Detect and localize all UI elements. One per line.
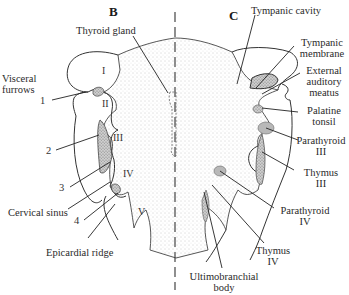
tympanic-cavity-shape bbox=[250, 74, 278, 89]
label-ultimobranchial-body-line2: body bbox=[188, 282, 260, 293]
label-tympanic-membrane-line1: Tympanic bbox=[296, 37, 348, 48]
label-external-auditory-meatus-line3: meatus bbox=[300, 87, 348, 98]
furrow-number-3: 3 bbox=[59, 182, 64, 193]
label-palatine-tonsil-line1: Palatine bbox=[300, 105, 348, 116]
furrow-number-4: 4 bbox=[74, 215, 79, 226]
panel-label-b: B bbox=[109, 4, 118, 20]
arch-numeral-iv: IV bbox=[123, 168, 134, 179]
pharyngeal-arches-diagram: B C Thyroid gland Visceral furrows Cervi… bbox=[0, 0, 349, 295]
label-external-auditory-meatus-line1: External bbox=[300, 65, 348, 76]
furrow-4-pouch bbox=[112, 184, 121, 194]
label-cervical-sinus: Cervical sinus bbox=[8, 207, 68, 218]
label-thymus-iii-line2: III bbox=[296, 178, 346, 189]
label-ultimobranchial-body-line1: Ultimobranchial bbox=[188, 271, 260, 282]
furrow-number-1: 1 bbox=[40, 95, 45, 106]
label-thyroid-gland: Thyroid gland bbox=[76, 25, 136, 36]
furrow-1-pouch bbox=[93, 87, 104, 96]
arch-numeral-i: I bbox=[102, 65, 105, 76]
arch-numeral-v: V bbox=[138, 206, 145, 217]
label-parathyroid-iii-line1: Parathyroid bbox=[293, 135, 349, 146]
palatine-tonsil-shape bbox=[253, 105, 263, 113]
furrow-number-2: 2 bbox=[46, 145, 51, 156]
arch-numeral-iii: III bbox=[113, 132, 123, 143]
arch-numeral-ii: II bbox=[102, 98, 109, 109]
label-parathyroid-iii-line2: III bbox=[293, 146, 349, 157]
label-parathyroid-iv-line2: IV bbox=[277, 216, 333, 227]
label-visceral-furrows-line1: Visceral bbox=[2, 73, 36, 84]
label-thymus-iii-line1: Thymus bbox=[296, 167, 346, 178]
label-tympanic-membrane-line2: membrane bbox=[296, 48, 348, 59]
pharynx-floor bbox=[102, 38, 278, 258]
label-parathyroid-iv-line1: Parathyroid bbox=[277, 205, 333, 216]
label-thymus-iv-line2: IV bbox=[248, 256, 298, 267]
label-external-auditory-meatus-line2: auditory bbox=[300, 76, 348, 87]
label-epicardial-ridge: Epicardial ridge bbox=[46, 247, 113, 258]
panel-label-c: C bbox=[229, 8, 238, 24]
label-thymus-iv-line1: Thymus bbox=[248, 245, 298, 256]
label-palatine-tonsil-line2: tonsil bbox=[300, 116, 348, 127]
label-visceral-furrows-line2: furrows bbox=[2, 84, 35, 95]
label-tympanic-cavity: Tympanic cavity bbox=[251, 5, 321, 16]
